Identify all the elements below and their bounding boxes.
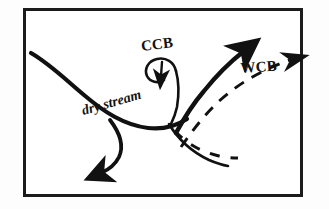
ccb-arrow-stem (161, 62, 162, 76)
conveyor-belt-diagram (0, 0, 329, 209)
dry-stream-main-curve (31, 53, 187, 129)
dry-stream-branch-arrow (101, 120, 121, 173)
label-wcb: WCB (240, 58, 277, 76)
ccb-tail-curve (171, 71, 178, 124)
figure-page: CCB WCB dry stream (0, 0, 329, 209)
